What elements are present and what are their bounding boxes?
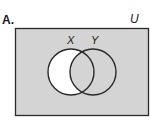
set-x-label: X <box>66 34 75 46</box>
venn-diagram: X Y <box>0 0 150 125</box>
set-y-label: Y <box>91 34 99 46</box>
